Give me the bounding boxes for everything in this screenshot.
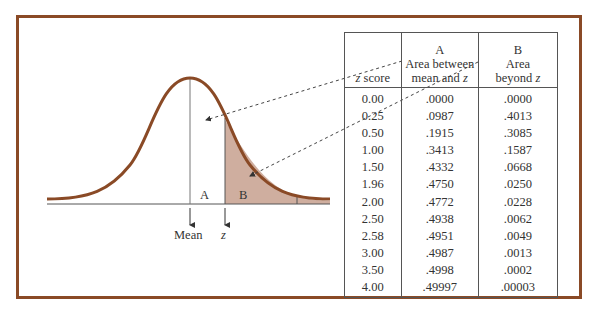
table-row: 3.00.4987.0013 bbox=[345, 245, 558, 262]
region-b-label: B bbox=[239, 188, 247, 203]
cell-z: 1.50 bbox=[345, 159, 402, 176]
cell-b: .4013 bbox=[478, 108, 557, 125]
table-row: 1.96.4750.0250 bbox=[345, 176, 558, 193]
cell-a: .4951 bbox=[401, 228, 478, 245]
table-row: 2.50.4938.0062 bbox=[345, 211, 558, 228]
cell-z: 2.00 bbox=[345, 194, 402, 211]
cell-z: 0.50 bbox=[345, 125, 402, 142]
cell-b: .0049 bbox=[478, 228, 557, 245]
cell-b: .0668 bbox=[478, 159, 557, 176]
mean-label: Mean bbox=[174, 228, 202, 243]
cell-a: .0000 bbox=[401, 88, 478, 109]
cell-a: .3413 bbox=[401, 142, 478, 159]
cell-z: 1.96 bbox=[345, 176, 402, 193]
header-area-beyond: B Area beyond z bbox=[478, 33, 557, 88]
cell-a: .4772 bbox=[401, 194, 478, 211]
cell-z: 3.00 bbox=[345, 245, 402, 262]
cell-a: .4938 bbox=[401, 211, 478, 228]
cell-z: 1.00 bbox=[345, 142, 402, 159]
region-a-label: A bbox=[200, 188, 209, 203]
cell-z: 0.00 bbox=[345, 88, 402, 109]
cell-a: .4332 bbox=[401, 159, 478, 176]
table-row: 0.50.1915.3085 bbox=[345, 125, 558, 142]
cell-a: .0987 bbox=[401, 108, 478, 125]
cell-z: 4.00 bbox=[345, 279, 402, 298]
cell-b: .0002 bbox=[478, 262, 557, 279]
header-area-between: A Area between mean and z bbox=[401, 33, 478, 88]
table-row: 0.25.0987.4013 bbox=[345, 108, 558, 125]
cell-a: .4987 bbox=[401, 245, 478, 262]
cell-b: .0062 bbox=[478, 211, 557, 228]
cell-a: .49997 bbox=[401, 279, 478, 298]
table-row: 4.00.49997.00003 bbox=[345, 279, 558, 298]
z-label: z bbox=[221, 228, 226, 243]
table-row: 1.00.3413.1587 bbox=[345, 142, 558, 159]
cell-a: .4750 bbox=[401, 176, 478, 193]
cell-z: 3.50 bbox=[345, 262, 402, 279]
table-row: 2.58.4951.0049 bbox=[345, 228, 558, 245]
cell-b: .0000 bbox=[478, 88, 557, 109]
cell-b: .00003 bbox=[478, 279, 557, 298]
cell-b: .3085 bbox=[478, 125, 557, 142]
cell-a: .1915 bbox=[401, 125, 478, 142]
z-table: z score A Area between mean and z B Area… bbox=[344, 32, 558, 298]
table-row: 3.50.4998.0002 bbox=[345, 262, 558, 279]
cell-z: 2.50 bbox=[345, 211, 402, 228]
normal-curve bbox=[47, 78, 330, 199]
cell-a: .4998 bbox=[401, 262, 478, 279]
table-row: 0.00.0000.0000 bbox=[345, 88, 558, 109]
cell-b: .0250 bbox=[478, 176, 557, 193]
cell-z: 0.25 bbox=[345, 108, 402, 125]
cell-b: .1587 bbox=[478, 142, 557, 159]
header-z-score: z score bbox=[345, 33, 402, 88]
cell-b: .0013 bbox=[478, 245, 557, 262]
table-row: 2.00.4772.0228 bbox=[345, 194, 558, 211]
cell-z: 2.58 bbox=[345, 228, 402, 245]
table-row: 1.50.4332.0668 bbox=[345, 159, 558, 176]
cell-b: .0228 bbox=[478, 194, 557, 211]
